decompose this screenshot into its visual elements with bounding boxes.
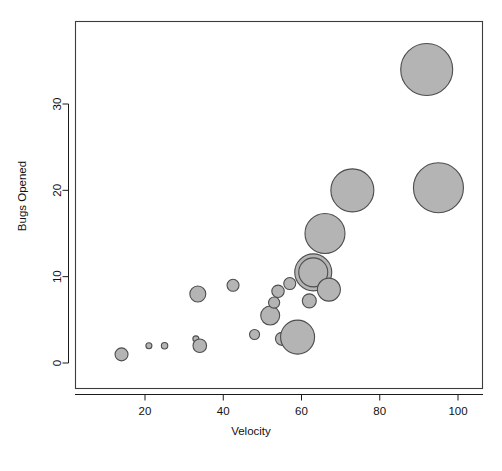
x-tick-label: 60 bbox=[295, 405, 308, 417]
y-axis: 0102030 bbox=[51, 98, 69, 367]
x-tick-label: 100 bbox=[448, 405, 467, 417]
chart-canvas: 20406080100 0102030 bbox=[0, 0, 502, 471]
bubble-point bbox=[281, 320, 315, 354]
bubble-chart: 20406080100 0102030 Velocity Bugs Opened bbox=[0, 0, 502, 471]
bubble-point bbox=[161, 343, 167, 349]
bubble-point bbox=[317, 278, 340, 301]
bubble-point bbox=[272, 285, 284, 297]
bubble-point bbox=[115, 348, 128, 361]
bubble-point bbox=[331, 169, 374, 212]
bubble-point bbox=[250, 330, 260, 340]
bubble-point bbox=[261, 306, 280, 325]
bubble-point bbox=[284, 278, 296, 290]
y-tick-label: 10 bbox=[51, 270, 63, 283]
y-tick-label: 30 bbox=[51, 98, 63, 111]
x-tick-label: 20 bbox=[139, 405, 152, 417]
bubble-point bbox=[305, 214, 345, 254]
bubble-point bbox=[190, 286, 206, 302]
bubbles-layer bbox=[115, 43, 463, 360]
bubble-point bbox=[302, 294, 316, 308]
x-tick-label: 40 bbox=[217, 405, 230, 417]
y-tick-label: 0 bbox=[51, 360, 63, 366]
bubble-point bbox=[146, 343, 152, 349]
bubble-point bbox=[413, 163, 463, 213]
bubble-point bbox=[227, 279, 239, 291]
bubble-point bbox=[193, 339, 207, 353]
x-axis: 20406080100 bbox=[75, 395, 483, 418]
bubble-point bbox=[401, 43, 453, 95]
y-tick-label: 20 bbox=[51, 184, 63, 197]
x-tick-label: 80 bbox=[373, 405, 386, 417]
bubble-point bbox=[269, 297, 280, 308]
